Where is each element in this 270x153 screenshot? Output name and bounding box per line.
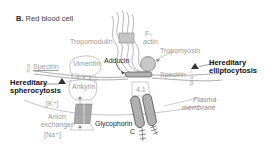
label-hereditary-spherocytosis-2: spherocytosis	[10, 87, 61, 95]
tropomyosin-shape	[141, 57, 156, 72]
label-plasma-membrane-2: membrane	[182, 104, 215, 112]
label-beta-left: β	[27, 68, 30, 73]
label-f-actin-2: actin	[143, 38, 158, 46]
label-ankyrin: Ankyrin	[72, 83, 95, 91]
spherocytosis-marker-icon	[58, 78, 66, 84]
label-vimentin: Vimentin	[73, 60, 100, 68]
label-4-1: 4.1	[136, 86, 146, 94]
label-spectrin-right: Spectrin	[160, 71, 186, 79]
label-plasma-membrane-1: Plasma	[193, 96, 216, 104]
label-na-ion: [Na⁺]	[44, 131, 61, 139]
label-tropomodulin: Tropomodulin	[70, 38, 113, 46]
glycophorin-shape	[130, 93, 157, 128]
label-hereditary-elliptocytosis-2: elliptocytosis	[209, 67, 257, 75]
label-adducin: Adducin	[104, 57, 129, 65]
label-spectrin-left: Spectrin	[33, 63, 59, 71]
panel-title: B. Red blood cell	[16, 15, 73, 23]
label-f-actin-1: F-	[145, 30, 152, 38]
label-glycophorin-2: C	[130, 128, 135, 136]
label-anion-exchanger-1: Anion	[40, 113, 74, 121]
label-glycophorin-1: Glycophorin	[95, 120, 132, 128]
tropomodulin-shape	[119, 33, 134, 43]
label-k-ion: [K⁺]	[46, 100, 59, 108]
label-anion-exchanger-2: exchanger	[36, 121, 78, 129]
label-beta-right: β	[190, 79, 193, 87]
adducin-shape	[125, 72, 152, 77]
elliptocytosis-marker-icon	[191, 63, 199, 69]
label-tropomyosin: Tropomyosin	[160, 47, 200, 55]
rbc-cytoskeleton-diagram: B. Red blood cell Tropomodulin F- actin …	[0, 0, 270, 153]
